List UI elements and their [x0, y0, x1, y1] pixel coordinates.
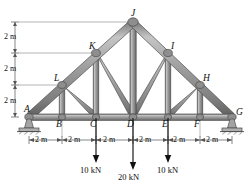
horizontal-dim-1: 2 m [35, 136, 47, 144]
load-label-E: 10 kN [157, 166, 178, 175]
joint-label-L: L [54, 74, 59, 84]
joint-label-K: K [89, 42, 95, 52]
horizontal-dim-2: 2 m [68, 136, 80, 144]
horizontal-dim-3: 2 m [103, 136, 115, 144]
joint-label-G: G [236, 108, 243, 118]
horizontal-dim-6: 2 m [206, 136, 218, 144]
load-label-D: 20 kN [118, 173, 139, 182]
joint-label-H: H [203, 74, 210, 84]
load-label-C: 10 kN [80, 166, 101, 175]
horizontal-dim-4: 2 m [139, 136, 151, 144]
truss-drawing [0, 0, 247, 186]
joint-label-I: I [171, 42, 174, 52]
truss-figure: A B C D E F G L K J I H 2 m 2 m 2 m 2 m … [0, 0, 247, 186]
joint-J [128, 18, 138, 26]
vertical-dim-3: 2 m [4, 97, 16, 105]
vertical-dim-1: 2 m [4, 33, 16, 41]
horizontal-dim-5: 2 m [173, 136, 185, 144]
member-K-D [95, 51, 136, 119]
joint-label-E: E [162, 120, 168, 130]
truss-members [27, 20, 234, 121]
joint-label-A: A [24, 105, 30, 115]
joint-label-J: J [131, 9, 135, 19]
joint-label-D: D [127, 120, 134, 130]
vertical-dim-2: 2 m [4, 65, 16, 73]
joint-label-B: B [56, 120, 62, 130]
member-J-D [130, 21, 136, 119]
joint-label-C: C [90, 120, 96, 130]
joint-label-F: F [194, 120, 200, 130]
